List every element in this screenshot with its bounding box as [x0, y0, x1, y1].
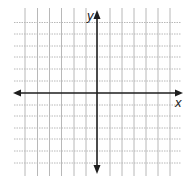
coordinate-plane [0, 0, 191, 176]
y-axis-label: y [87, 9, 94, 22]
y-axis-down-arrow-icon [94, 165, 101, 174]
x-axis-left-arrow-icon [13, 90, 21, 97]
x-axis-label: x [175, 96, 182, 109]
y-axis-up-arrow-icon [94, 10, 101, 19]
